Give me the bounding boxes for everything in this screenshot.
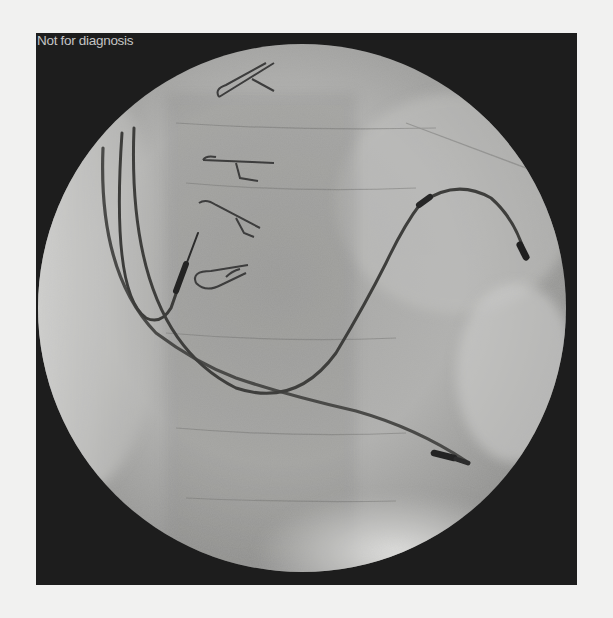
not-for-diagnosis-label: Not for diagnosis — [37, 34, 133, 48]
xray-field — [36, 33, 577, 585]
xray-frame: Not for diagnosis — [36, 33, 577, 585]
fluoroscopy-image — [36, 33, 577, 585]
